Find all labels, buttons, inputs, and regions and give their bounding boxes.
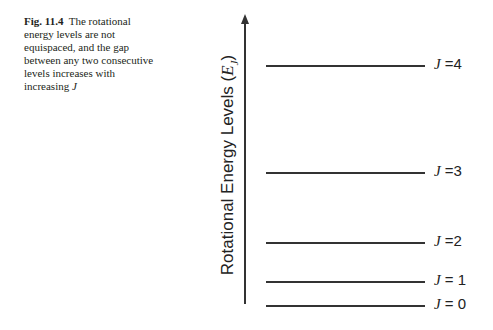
energy-level-label: J =2 xyxy=(434,232,462,250)
energy-level-line xyxy=(266,172,425,174)
y-axis-label: Rotational Energy Levels (EJ) xyxy=(218,55,239,275)
figure-label: Fig. 11.4 xyxy=(24,15,63,27)
energy-level-label: J = 1 xyxy=(434,271,466,289)
caption-symbol: J xyxy=(72,80,77,92)
energy-level-label: J =4 xyxy=(434,55,462,73)
energy-level-label: J =3 xyxy=(434,162,462,180)
energy-axis xyxy=(244,22,246,304)
energy-level-label: J = 0 xyxy=(434,295,466,313)
energy-level-line xyxy=(266,242,425,244)
energy-level-line xyxy=(266,281,425,283)
energy-level-line xyxy=(266,65,425,67)
energy-level-line xyxy=(266,305,425,307)
figure-caption: Fig. 11.4 The rotational energy levels a… xyxy=(24,15,154,93)
